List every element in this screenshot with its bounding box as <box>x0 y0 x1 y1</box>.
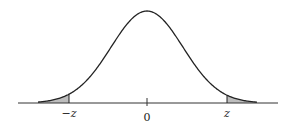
label-minus-z: −z <box>61 107 76 120</box>
bell-curve <box>38 11 257 102</box>
label-zero: 0 <box>144 111 151 124</box>
normal-curve-diagram: −z 0 z <box>0 0 292 125</box>
label-z: z <box>223 107 230 120</box>
